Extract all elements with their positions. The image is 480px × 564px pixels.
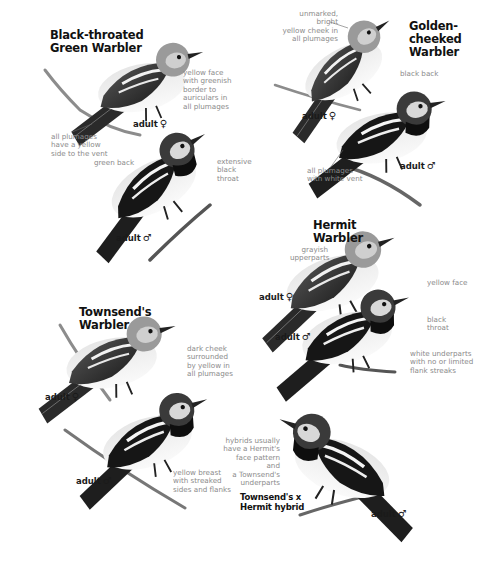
note-btgw-black-throat: extensive black throat xyxy=(217,158,252,183)
title-line: Warbler xyxy=(409,46,462,59)
male-symbol-icon: ♂ xyxy=(398,508,407,519)
note-hewa-black-throat: black throat xyxy=(427,316,449,333)
note-gcwa-white-vent: all plumages with white vent xyxy=(307,167,363,184)
age-text: adult xyxy=(371,509,396,519)
age-label-btgw-male: adult♂ xyxy=(116,232,152,243)
note-btgw-yellow-vent: all plumages have a yellow side to the v… xyxy=(51,133,108,158)
species-title-black-throated-green: Black-throated Green Warbler xyxy=(50,29,143,55)
age-label-towa-female: adult♀ xyxy=(45,391,79,402)
age-label-hybrid-male: adult♂ xyxy=(371,508,407,519)
age-label-hewa-female: adult♀ xyxy=(259,291,293,302)
note-hewa-grayish-upperparts: grayish upperparts xyxy=(290,246,328,263)
title-line: Green Warbler xyxy=(50,42,143,55)
male-symbol-icon: ♂ xyxy=(427,160,436,171)
age-text: adult xyxy=(302,111,327,121)
age-text: adult xyxy=(133,119,158,129)
age-label-btgw-female: adult♀ xyxy=(133,118,167,129)
age-text: adult xyxy=(76,476,101,486)
male-symbol-icon: ♂ xyxy=(302,331,311,342)
age-text: adult xyxy=(400,161,425,171)
female-symbol-icon: ♀ xyxy=(72,391,79,402)
species-title-townsends: Townsend's Warbler xyxy=(79,306,151,332)
field-guide-page: Black-throated Green Warbler Golden- che… xyxy=(0,0,480,564)
note-hybrid-pattern: hybrids usually have a Hermit's face pat… xyxy=(222,437,280,487)
age-text: adult xyxy=(116,233,141,243)
note-gcwa-yellow-cheek: unmarked, bright yellow cheek in all plu… xyxy=(278,10,338,44)
male-symbol-icon: ♂ xyxy=(143,232,152,243)
female-symbol-icon: ♀ xyxy=(160,118,167,129)
age-label-towa-male: adult♂ xyxy=(76,475,112,486)
female-symbol-icon: ♀ xyxy=(329,110,336,121)
title-line: Townsend's x xyxy=(240,492,304,502)
note-hewa-yellow-face: yellow face xyxy=(427,279,468,287)
age-label-hewa-male: adult♂ xyxy=(275,331,311,342)
age-text: adult xyxy=(259,292,284,302)
title-line: Hermit hybrid xyxy=(240,502,304,512)
male-symbol-icon: ♂ xyxy=(103,475,112,486)
species-title-golden-cheeked: Golden- cheeked Warbler xyxy=(409,20,462,59)
age-label-gcwa-female: adult♀ xyxy=(302,110,336,121)
note-hewa-white-underparts: white underparts with no or limited flan… xyxy=(410,350,473,375)
age-label-gcwa-male: adult♂ xyxy=(400,160,436,171)
note-btgw-yellow-face: yellow face with greenish border to auri… xyxy=(183,69,232,111)
age-text: adult xyxy=(45,392,70,402)
title-line: Warbler xyxy=(79,319,151,332)
bird-hybrid-male xyxy=(254,403,438,544)
note-btgw-green-back: green back xyxy=(94,159,134,167)
species-title-hermit: Hermit Warbler xyxy=(313,219,363,245)
species-title-hybrid: Townsend's x Hermit hybrid xyxy=(240,492,304,512)
note-towa-dark-cheek: dark cheek surrounded by yellow in all p… xyxy=(187,345,233,379)
title-line: Warbler xyxy=(313,232,363,245)
age-text: adult xyxy=(275,332,300,342)
note-gcwa-black-back: black back xyxy=(400,70,438,78)
female-symbol-icon: ♀ xyxy=(286,291,293,302)
